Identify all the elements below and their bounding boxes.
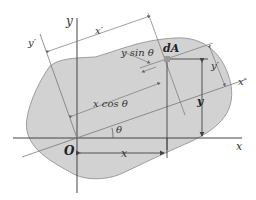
y-sin-label: y sin θ xyxy=(120,47,154,58)
dA-label: dA xyxy=(163,42,180,55)
x-prime-right-label: x′ xyxy=(238,76,247,87)
y-axis-label: y xyxy=(65,14,73,28)
x-prime-top-label: x′ xyxy=(95,25,104,36)
y-prime-right-label: y′ xyxy=(210,60,220,71)
x-axis-label: x xyxy=(236,140,243,153)
origin-label: O xyxy=(64,144,75,158)
x-cos-label: x cos θ xyxy=(93,98,128,109)
dA-element xyxy=(164,56,170,62)
moment-of-inertia-diagram: y x y′ x′ x′ y′ dA y sin θ x cos θ θ O x… xyxy=(0,0,256,200)
y-prime-top-label: y′ xyxy=(27,37,37,48)
theta-label: θ xyxy=(116,124,122,135)
x-dimension-label: x xyxy=(121,147,128,160)
